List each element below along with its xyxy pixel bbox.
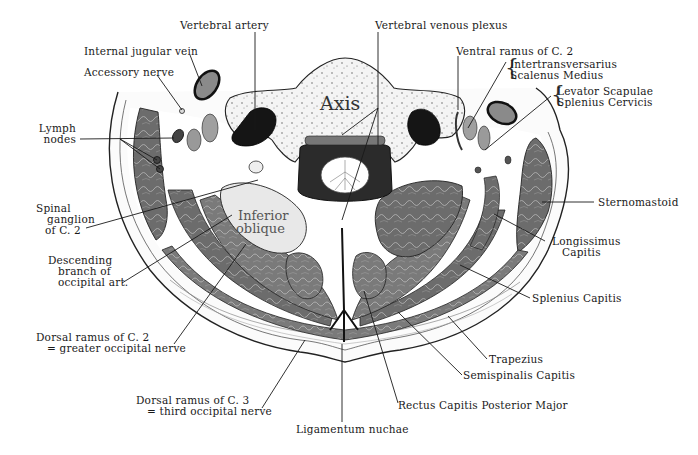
axis-label: Axis xyxy=(319,92,360,114)
label-sternomastoid: Sternomastoid xyxy=(598,197,679,208)
label-trapezius: Trapezius xyxy=(489,354,543,365)
label-splenius-capitis: Splenius Capitis xyxy=(532,293,622,304)
intertransversarius-muscle xyxy=(463,116,477,140)
label-accessory-nerve: Accessory nerve xyxy=(84,67,174,78)
muscle-bundle xyxy=(187,129,201,151)
label-rectus-capitis: Rectus Capitis Posterior Major xyxy=(398,400,568,411)
label-descending-branch-3: occipital art. xyxy=(58,277,128,288)
label-lymph-nodes-2: nodes xyxy=(36,134,76,145)
small-vessel xyxy=(475,167,481,173)
label-dorsal-ramus-c2-2: = greater occipital nerve xyxy=(47,343,186,354)
small-vessel xyxy=(505,156,511,164)
label-internal-jugular-vein: Internal jugular vein xyxy=(84,46,198,57)
label-dorsal-ramus-c3-2: = third occipital nerve xyxy=(147,406,272,417)
label-longissimus-2: Capitis xyxy=(562,247,601,258)
ligamentum-flavum xyxy=(305,136,385,145)
spinal-ganglion xyxy=(249,161,263,173)
label-vertebral-venous-plexus: Vertebral venous plexus xyxy=(375,20,508,31)
rectus-capitis-right xyxy=(353,252,387,298)
label-splenius-cervicis: Splenius Cervicis xyxy=(557,97,653,108)
label-scalenus-medius: Scalenus Medius xyxy=(510,70,603,81)
muscle-bundle xyxy=(202,114,218,142)
label-spinal-ganglion-3: of C. 2 xyxy=(45,225,81,236)
label-ligamentum-nuchae: Ligamentum nuchae xyxy=(296,424,409,435)
label-semispinalis-capitis: Semispinalis Capitis xyxy=(463,370,575,381)
levator-scapulae-muscle xyxy=(478,126,490,150)
label-vertebral-artery: Vertebral artery xyxy=(180,20,269,31)
inferior-oblique-text-2: oblique xyxy=(236,221,285,236)
